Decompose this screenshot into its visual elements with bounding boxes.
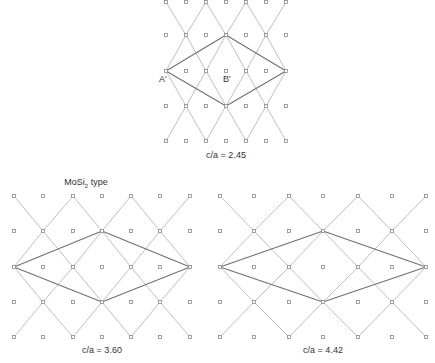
lattice-point bbox=[205, 1, 208, 4]
lattice-point bbox=[322, 336, 325, 339]
lattice-point bbox=[165, 70, 168, 73]
lattice-point bbox=[130, 230, 133, 233]
lattice-line bbox=[220, 302, 254, 337]
lattice-point bbox=[225, 70, 228, 73]
lattice-point bbox=[225, 1, 228, 4]
unit-cell-edge bbox=[14, 267, 102, 302]
lattice-point bbox=[288, 301, 291, 304]
lattice-line bbox=[323, 267, 358, 302]
lattice-point bbox=[391, 336, 394, 339]
lattice-line bbox=[160, 267, 190, 302]
lattice-line bbox=[246, 106, 266, 141]
lattice-point bbox=[391, 301, 394, 304]
lattice-point bbox=[42, 301, 45, 304]
caption-bottom-left: c/a = 3.60 bbox=[82, 345, 122, 355]
unit-cell-edge bbox=[226, 35, 286, 71]
unit-cell-edge bbox=[220, 231, 323, 267]
lattice-point bbox=[285, 34, 288, 37]
lattice-line bbox=[102, 302, 131, 337]
lattice-line bbox=[392, 196, 426, 231]
lattice-point bbox=[357, 266, 360, 269]
lattice-point bbox=[101, 266, 104, 269]
lattice-line bbox=[266, 2, 286, 35]
lattice-point bbox=[253, 266, 256, 269]
unit-cell-edge bbox=[220, 267, 323, 302]
lattice-point bbox=[219, 336, 222, 339]
lattice-point bbox=[130, 336, 133, 339]
lattice-point bbox=[245, 1, 248, 4]
lattice-point bbox=[357, 195, 360, 198]
point-label-a-prime: A' bbox=[159, 74, 167, 84]
lattice-line bbox=[14, 196, 43, 231]
lattice-point bbox=[72, 266, 75, 269]
lattice-line bbox=[358, 196, 392, 231]
lattice-point bbox=[189, 195, 192, 198]
lattice-point bbox=[205, 70, 208, 73]
lattice-line bbox=[254, 302, 289, 337]
lattice-point bbox=[265, 105, 268, 108]
lattice-point bbox=[185, 1, 188, 4]
lattice-point bbox=[285, 140, 288, 143]
unit-cell-edge bbox=[102, 267, 190, 302]
lattice-point bbox=[130, 301, 133, 304]
lattice-point bbox=[189, 301, 192, 304]
lattice-point bbox=[357, 301, 360, 304]
lattice-line bbox=[226, 2, 246, 35]
unit-cell-edge bbox=[226, 71, 286, 106]
lattice-point bbox=[13, 266, 16, 269]
lattice-point bbox=[265, 70, 268, 73]
lattice-point bbox=[189, 266, 192, 269]
lattice-point bbox=[357, 230, 360, 233]
lattice-point bbox=[185, 140, 188, 143]
lattice-line bbox=[160, 302, 190, 337]
lattice-line bbox=[254, 196, 289, 231]
lattice-line bbox=[289, 196, 323, 231]
lattice-point bbox=[205, 34, 208, 37]
lattice-line bbox=[73, 196, 102, 231]
lattice-point bbox=[219, 266, 222, 269]
lattice-point bbox=[253, 230, 256, 233]
lattice-line bbox=[102, 196, 131, 231]
lattice-point bbox=[42, 336, 45, 339]
lattice-point bbox=[253, 195, 256, 198]
lattice-line bbox=[323, 231, 358, 267]
lattice-point bbox=[159, 301, 162, 304]
lattice-line bbox=[323, 302, 358, 337]
lattice-point bbox=[285, 1, 288, 4]
lattice-point bbox=[42, 230, 45, 233]
lattice-point bbox=[219, 230, 222, 233]
lattice-point bbox=[13, 230, 16, 233]
lattice-point bbox=[265, 34, 268, 37]
lattice-point bbox=[288, 230, 291, 233]
lattice-point bbox=[42, 266, 45, 269]
lattice-line bbox=[392, 302, 426, 337]
lattice-point bbox=[13, 195, 16, 198]
lattice-point bbox=[42, 195, 45, 198]
lattice-point bbox=[205, 140, 208, 143]
caption-bottom-right: c/a = 4.42 bbox=[303, 345, 343, 355]
lattice-point bbox=[159, 266, 162, 269]
lattice-point bbox=[72, 230, 75, 233]
lattice-point bbox=[13, 301, 16, 304]
lattice-point bbox=[391, 195, 394, 198]
lattice-point bbox=[425, 336, 428, 339]
lattice-line bbox=[73, 302, 102, 337]
lattice-point bbox=[288, 336, 291, 339]
lattice-point bbox=[245, 140, 248, 143]
lattice-point bbox=[72, 301, 75, 304]
lattice-point bbox=[265, 140, 268, 143]
lattice-line bbox=[266, 106, 286, 141]
unit-cell-edge bbox=[166, 35, 226, 71]
lattice-point bbox=[159, 230, 162, 233]
lattice-point bbox=[165, 140, 168, 143]
lattice-point bbox=[189, 230, 192, 233]
lattice-point bbox=[185, 34, 188, 37]
lattice-point bbox=[189, 336, 192, 339]
lattice-point bbox=[159, 336, 162, 339]
lattice-line bbox=[131, 196, 160, 231]
lattice-point bbox=[165, 1, 168, 4]
lattice-point bbox=[425, 301, 428, 304]
lattice-line bbox=[186, 106, 206, 141]
unit-cell-edge bbox=[14, 231, 102, 267]
lattice-point bbox=[13, 336, 16, 339]
